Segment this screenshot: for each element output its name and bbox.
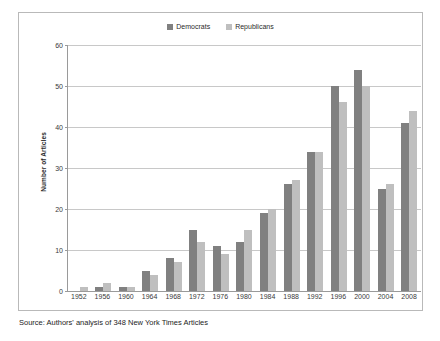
x-tick-label-1988: 1988 xyxy=(279,293,303,300)
bar-republicans-1984 xyxy=(268,209,276,291)
bar-group-1960 xyxy=(115,45,139,291)
y-axis-title: Number of Articles xyxy=(40,132,47,192)
bar-republicans-1980 xyxy=(244,230,252,292)
x-tick-label-1964: 1964 xyxy=(138,293,162,300)
chart-frame: Democrats Republicans Number of Articles… xyxy=(18,12,423,311)
y-tick-label-50: 50 xyxy=(55,83,63,90)
bar-republicans-1972 xyxy=(197,242,205,291)
y-tick-label-10: 10 xyxy=(55,247,63,254)
x-tick-label-2000: 2000 xyxy=(350,293,374,300)
x-tick-label-2008: 2008 xyxy=(397,293,421,300)
bar-democrats-1964 xyxy=(142,271,150,292)
bar-group-1980 xyxy=(233,45,257,291)
bar-republicans-2004 xyxy=(386,184,394,291)
legend-label-republicans: Republicans xyxy=(235,23,274,31)
legend-item-republicans: Republicans xyxy=(226,23,274,31)
bars-layer xyxy=(68,45,421,291)
legend-item-democrats: Democrats xyxy=(167,23,210,31)
gridline-0 xyxy=(68,291,421,292)
bar-group-1996 xyxy=(327,45,351,291)
bar-group-2008 xyxy=(397,45,421,291)
bar-group-2004 xyxy=(374,45,398,291)
bar-republicans-1968 xyxy=(174,262,182,291)
bar-democrats-1996 xyxy=(331,86,339,291)
plot-area: 0102030405060 xyxy=(67,45,421,291)
y-tick-label-20: 20 xyxy=(55,206,63,213)
bar-republicans-1976 xyxy=(221,254,229,291)
bar-group-1952 xyxy=(68,45,92,291)
legend-swatch-democrats-icon xyxy=(167,24,173,30)
x-tick-label-1984: 1984 xyxy=(256,293,280,300)
bar-democrats-1956 xyxy=(95,287,103,291)
bar-republicans-1992 xyxy=(315,152,323,291)
bar-democrats-1988 xyxy=(284,184,292,291)
x-tick-label-1996: 1996 xyxy=(327,293,351,300)
legend-swatch-republicans-icon xyxy=(226,24,232,30)
bar-republicans-1956 xyxy=(103,283,111,291)
x-tick-label-1960: 1960 xyxy=(114,293,138,300)
y-tick-label-40: 40 xyxy=(55,124,63,131)
bar-group-2000 xyxy=(350,45,374,291)
bar-democrats-2004 xyxy=(378,189,386,292)
bar-democrats-1960 xyxy=(119,287,127,291)
bar-republicans-1952 xyxy=(80,287,88,291)
bar-democrats-1992 xyxy=(307,152,315,291)
bar-democrats-1980 xyxy=(236,242,244,291)
bar-democrats-1968 xyxy=(166,258,174,291)
y-tick-label-0: 0 xyxy=(59,288,63,295)
y-tick-label-30: 30 xyxy=(55,165,63,172)
bar-democrats-1976 xyxy=(213,246,221,291)
bar-group-1968 xyxy=(162,45,186,291)
bar-republicans-2000 xyxy=(362,86,370,291)
chart-figure: Democrats Republicans Number of Articles… xyxy=(0,0,440,341)
legend-label-democrats: Democrats xyxy=(176,23,210,31)
bar-republicans-1960 xyxy=(127,287,135,291)
bar-republicans-1996 xyxy=(339,102,347,291)
bar-democrats-1972 xyxy=(189,230,197,292)
x-axis-tick-labels: 1952195619601964196819721976198019841988… xyxy=(67,293,421,300)
x-tick-label-1952: 1952 xyxy=(67,293,91,300)
bar-group-1956 xyxy=(92,45,116,291)
x-tick-label-1956: 1956 xyxy=(91,293,115,300)
source-note: Source: Authors' analysis of 348 New Yor… xyxy=(19,318,208,327)
x-tick-label-1992: 1992 xyxy=(303,293,327,300)
bar-group-1964 xyxy=(139,45,163,291)
bar-democrats-1984 xyxy=(260,213,268,291)
x-tick-label-1968: 1968 xyxy=(161,293,185,300)
bar-group-1984 xyxy=(256,45,280,291)
x-tick-label-2004: 2004 xyxy=(374,293,398,300)
bar-group-1988 xyxy=(280,45,304,291)
bar-republicans-2008 xyxy=(409,111,417,291)
bar-group-1972 xyxy=(186,45,210,291)
x-tick-label-1972: 1972 xyxy=(185,293,209,300)
bar-group-1976 xyxy=(209,45,233,291)
y-tick-mark-0 xyxy=(65,291,68,292)
bar-republicans-1964 xyxy=(150,275,158,291)
bar-democrats-2000 xyxy=(354,70,362,291)
bar-group-1992 xyxy=(303,45,327,291)
y-tick-label-60: 60 xyxy=(55,42,63,49)
bar-democrats-2008 xyxy=(401,123,409,291)
chart-legend: Democrats Republicans xyxy=(19,23,422,31)
bar-republicans-1988 xyxy=(292,180,300,291)
x-tick-label-1976: 1976 xyxy=(209,293,233,300)
x-tick-label-1980: 1980 xyxy=(232,293,256,300)
